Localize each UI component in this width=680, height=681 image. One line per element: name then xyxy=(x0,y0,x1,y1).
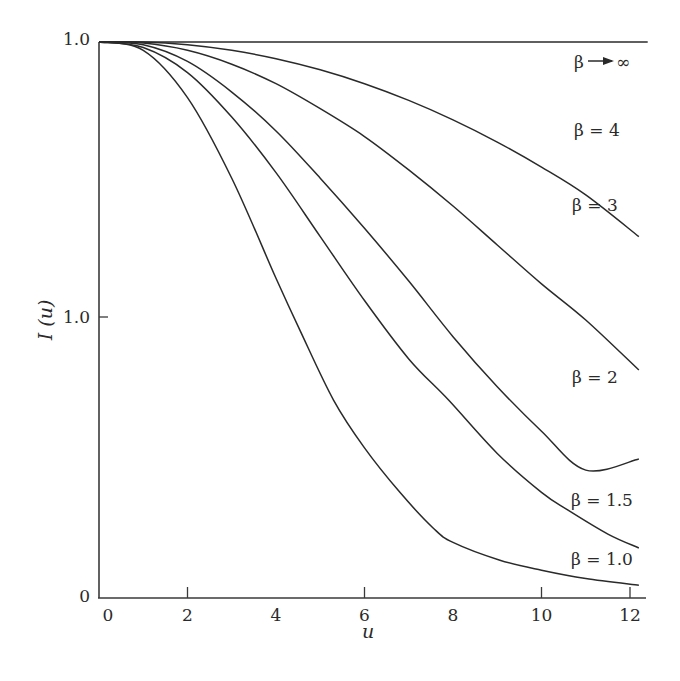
x-tick-label: 8 xyxy=(448,605,459,625)
y-ticks: 01.01.0 xyxy=(63,29,108,606)
x-tick-label: 0 xyxy=(103,605,114,625)
x-tick-label: 10 xyxy=(531,605,553,625)
curve-label-beta-3: β = 3 xyxy=(572,195,618,215)
curve-1-5 xyxy=(99,42,639,548)
curve-label-beta-2: β = 2 xyxy=(572,367,618,387)
x-tick-label: 4 xyxy=(271,605,282,625)
x-tick-label: 2 xyxy=(182,605,193,625)
y-tick-label: 1.0 xyxy=(63,307,90,327)
curve-label-beta-4: β = 4 xyxy=(574,120,620,140)
curve-label-beta-1-0: β = 1.0 xyxy=(571,549,633,569)
infinity-symbol: ∞ xyxy=(616,52,630,72)
x-tick-label: 12 xyxy=(619,605,641,625)
curve-label-beta-1-5: β = 1.5 xyxy=(571,490,633,510)
y-tick-label: 1.0 xyxy=(63,29,90,49)
curve-label-beta-infinity: β ∞ xyxy=(574,52,630,72)
beta-symbol: β xyxy=(574,52,584,72)
y-axis-title: I (u) xyxy=(34,300,56,342)
curve-2 xyxy=(99,42,639,471)
x-axis-title: u xyxy=(362,620,374,642)
y-tick-label: 0 xyxy=(79,586,90,606)
curve-3 xyxy=(99,42,639,370)
chart-canvas: 024681012 01.01.0 u I (u) β ∞ β = 4 β = … xyxy=(0,0,680,681)
axes xyxy=(98,42,646,598)
curves xyxy=(99,42,648,585)
arrow-right-icon xyxy=(588,57,614,65)
